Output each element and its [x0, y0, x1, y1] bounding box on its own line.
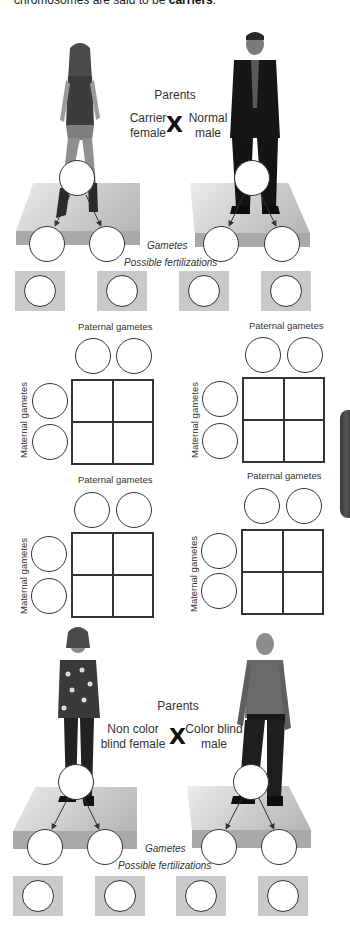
- paternal-gamete-circle[interactable]: [74, 492, 110, 528]
- paternal-gamete-circle[interactable]: [286, 488, 322, 524]
- fertilization-box-3: [179, 271, 229, 311]
- gametes-label: Gametes: [147, 240, 188, 251]
- punnett-cell[interactable]: [113, 575, 154, 617]
- offspring-2-circle[interactable]: [106, 275, 138, 307]
- female-gamete-1-circle[interactable]: [27, 829, 63, 865]
- female-gamete-1-circle[interactable]: [29, 226, 65, 262]
- paternal-gametes-label: Paternal gametes: [78, 321, 152, 332]
- punnett-cell[interactable]: [284, 378, 325, 420]
- offspring-1-circle[interactable]: [22, 880, 54, 912]
- paternal-gametes-label: Paternal gametes: [247, 470, 321, 481]
- paternal-gamete-circle[interactable]: [245, 337, 281, 373]
- paternal-gametes-label: Paternal gametes: [78, 474, 152, 485]
- offspring-2-circle[interactable]: [104, 880, 136, 912]
- fertilization-box-2: [97, 271, 147, 311]
- punnett-cell[interactable]: [283, 530, 324, 572]
- paternal-gamete-circle[interactable]: [116, 492, 152, 528]
- punnett-cell[interactable]: [243, 420, 284, 462]
- maternal-gametes-label: Maternal gametes: [18, 538, 29, 614]
- male-gamete-2-circle[interactable]: [261, 829, 297, 865]
- color-blind-male-label: Color blind male: [182, 722, 246, 752]
- fertilization-box-4: [261, 271, 311, 311]
- fertilization-box-4: [258, 876, 308, 916]
- offspring-3-circle[interactable]: [185, 880, 217, 912]
- punnett-cell[interactable]: [113, 422, 154, 464]
- maternal-gamete-circle[interactable]: [32, 424, 68, 460]
- fertilization-box-2: [95, 876, 145, 916]
- maternal-gametes-label: Maternal gametes: [188, 536, 199, 612]
- punnett-grid: [71, 379, 154, 465]
- punnett-grid: [241, 529, 324, 615]
- maternal-gametes-label: Maternal gametes: [18, 382, 29, 458]
- fertilization-box-1: [13, 876, 63, 916]
- punnett-cell[interactable]: [72, 380, 113, 422]
- maternal-gamete-circle[interactable]: [32, 383, 68, 419]
- offspring-4-circle[interactable]: [267, 880, 299, 912]
- punnett-cell[interactable]: [113, 380, 154, 422]
- paternal-gamete-circle[interactable]: [244, 488, 280, 524]
- punnett-cell[interactable]: [113, 533, 154, 575]
- punnett-cell[interactable]: [72, 422, 113, 464]
- paternal-gametes-label: Paternal gametes: [249, 320, 323, 331]
- maternal-gamete-circle[interactable]: [202, 423, 238, 459]
- maternal-gamete-circle[interactable]: [201, 533, 237, 569]
- maternal-gamete-circle[interactable]: [201, 573, 237, 609]
- maternal-gamete-circle[interactable]: [31, 536, 67, 572]
- gametes-label: Gametes: [145, 843, 186, 854]
- paternal-gamete-circle[interactable]: [116, 338, 152, 374]
- punnett-cell[interactable]: [283, 572, 324, 614]
- parents-label: Parents: [148, 699, 208, 713]
- female-gamete-2-circle[interactable]: [89, 226, 125, 262]
- non-color-blind-female-label: Non color blind female: [99, 722, 167, 752]
- maternal-gametes-label: Maternal gametes: [189, 382, 200, 458]
- punnett-cell[interactable]: [72, 533, 113, 575]
- male-gamete-2-circle[interactable]: [264, 226, 300, 262]
- punnett-cell[interactable]: [284, 420, 325, 462]
- maternal-gamete-circle[interactable]: [31, 578, 67, 614]
- offspring-3-circle[interactable]: [188, 275, 220, 307]
- gamete-arrows: [0, 0, 346, 260]
- punnett-cell[interactable]: [242, 530, 283, 572]
- fertilization-box-1: [15, 271, 65, 311]
- punnett-grid: [242, 377, 325, 463]
- punnett-cell[interactable]: [242, 572, 283, 614]
- maternal-gamete-circle[interactable]: [202, 381, 238, 417]
- fertilizations-label: Possible fertilizations: [124, 257, 217, 268]
- fertilization-box-3: [176, 876, 226, 916]
- fertilizations-label: Possible fertilizations: [118, 860, 211, 871]
- page-side-tab: [340, 410, 350, 518]
- paternal-gamete-circle[interactable]: [75, 338, 111, 374]
- punnett-cell[interactable]: [72, 575, 113, 617]
- offspring-4-circle[interactable]: [270, 275, 302, 307]
- offspring-1-circle[interactable]: [24, 275, 56, 307]
- punnett-cell[interactable]: [243, 378, 284, 420]
- punnett-grid: [71, 532, 154, 618]
- paternal-gamete-circle[interactable]: [287, 337, 323, 373]
